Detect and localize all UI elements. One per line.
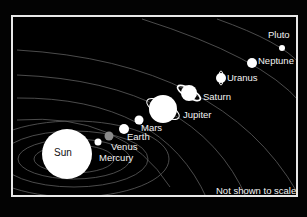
- label-pluto: Pluto: [268, 30, 290, 40]
- scale-note: Not shown to scale: [216, 186, 296, 196]
- planet-jupiter: [144, 94, 182, 123]
- planet-mercury: [95, 139, 102, 146]
- planet-uranus: [216, 71, 226, 85]
- label-sun: Sun: [54, 148, 72, 158]
- diagram-frame: [11, 15, 298, 197]
- label-neptune: Neptune: [258, 56, 294, 66]
- label-jupiter: Jupiter: [183, 110, 212, 120]
- label-saturn: Saturn: [203, 92, 231, 102]
- planet-neptune: [247, 58, 257, 68]
- planet-pluto: [279, 45, 285, 51]
- label-earth: Earth: [127, 132, 150, 142]
- label-mercury: Mercury: [99, 153, 133, 163]
- label-venus: Venus: [111, 142, 137, 152]
- label-uranus: Uranus: [227, 73, 258, 83]
- label-mars: Mars: [141, 123, 162, 133]
- planet-venus: [105, 132, 114, 141]
- planet-saturn: [175, 83, 202, 104]
- orbits-and-planets: [13, 17, 298, 197]
